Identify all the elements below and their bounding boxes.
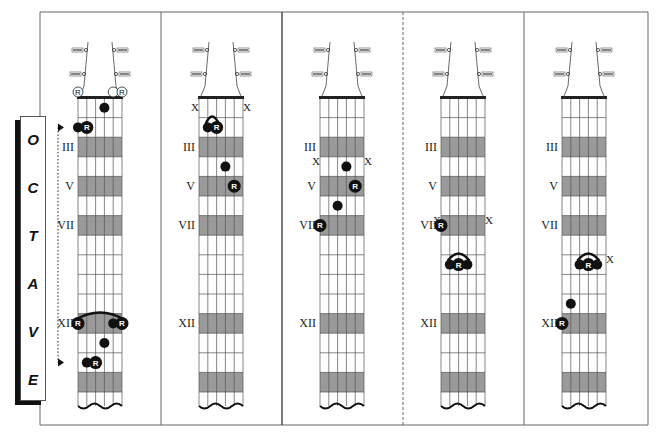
octave-label-box: O C T A V E [20,116,46,401]
finger-dot [333,201,343,211]
fret-position-label: III [62,140,74,154]
muted-string-marker: X [243,101,251,113]
shaded-fret-marker [199,137,243,157]
root-label: R [456,261,462,270]
octave-arrow-icon [58,359,64,367]
fret-position-label: III [183,140,195,154]
fretboard-diagrams: IIIVVIIXIIRRRRRRIIIVVIIXIIXXRRIIIVVIIXII… [0,0,669,445]
headstock [312,42,372,98]
shaded-fret-marker [78,372,122,392]
shaded-fret-marker [562,216,606,236]
muted-string-marker: X [312,155,320,167]
octave-arrow-icon [58,123,64,131]
finger-dot [566,299,576,309]
fret-position-label: V [428,179,437,193]
root-label: R [75,88,81,97]
fret-position-label: XII [299,316,316,330]
muted-string-marker: X [364,155,372,167]
root-label: R [214,123,220,132]
octave-letter: E [21,371,45,388]
shaded-fret-marker [320,137,364,157]
shaded-fret-marker [320,314,364,334]
fret-position-label: XII [57,316,74,330]
root-label: R [75,319,81,328]
fret-position-label: V [549,179,558,193]
headstock [191,42,251,98]
muted-string-marker: X [191,101,199,113]
fret-position-label: III [425,140,437,154]
fretboard-break-wave [78,404,122,409]
shaded-fret-marker [199,314,243,334]
nut [319,96,365,99]
root-label: R [231,182,237,191]
root-label: R [119,319,125,328]
octave-letter: O [21,131,45,148]
root-label: R [352,182,358,191]
root-label: R [84,123,90,132]
nut [561,96,607,99]
shaded-fret-marker [199,216,243,236]
fret-position-label: V [307,179,316,193]
shaded-fret-marker [441,176,485,196]
shaded-fret-marker [78,137,122,157]
fretboard-1: IIIVVIIXIIRRRRRR [57,42,130,409]
headstock [433,42,493,98]
nut [440,96,486,99]
fret-position-label: XII [178,316,195,330]
fret-position-label: VII [178,218,195,232]
shaded-fret-marker [562,137,606,157]
octave-letter: C [21,179,45,196]
shaded-fret-marker [320,372,364,392]
chord-diagram-sheet: IIIVVIIXIIRRRRRRIIIVVIIXIIXXRRIIIVVIIXII… [0,0,669,445]
shaded-fret-marker [441,137,485,157]
nut [198,96,244,99]
fret-position-label: XII [541,316,558,330]
root-label: R [559,319,565,328]
fretboard-break-wave [562,404,606,409]
shaded-fret-marker [441,314,485,334]
shaded-fret-marker [78,176,122,196]
fret-position-label: III [304,140,316,154]
octave-letter: T [21,227,45,244]
shaded-fret-marker [78,216,122,236]
fretboard-3: IIIVVIIXIIXXRR [299,42,372,409]
fret-position-label: V [65,179,74,193]
shaded-fret-marker [562,176,606,196]
fretboard-break-wave [320,404,364,409]
root-label: R [93,359,99,368]
muted-string-marker: X [606,253,614,265]
fretboard-break-wave [199,404,243,409]
muted-string-marker: X [485,214,493,226]
shaded-fret-marker [441,372,485,392]
fret-position-label: V [186,179,195,193]
fretboard-break-wave [441,404,485,409]
root-label: R [438,221,444,230]
fretboard-4: IIIVVIIXIIXXRR [420,42,493,409]
headstock [554,42,614,98]
fret-position-label: III [546,140,558,154]
octave-letter: V [21,323,45,340]
finger-dot [462,260,472,270]
fretboard-5: IIIVVIIXIIXRR [541,42,614,409]
shaded-fret-marker [562,372,606,392]
shaded-fret-marker [562,314,606,334]
finger-dot [99,103,109,113]
finger-dot [592,260,602,270]
root-label: R [119,88,125,97]
fret-position-label: VII [57,218,74,232]
fret-position-label: VII [541,218,558,232]
finger-dot [220,162,230,172]
fretboard-2: IIIVVIIXIIXXRR [178,42,251,409]
shaded-fret-marker [320,216,364,236]
fret-position-label: XII [420,316,437,330]
finger-dot [99,338,109,348]
shaded-fret-marker [441,216,485,236]
fret-position-label: VII [299,218,316,232]
root-label: R [586,261,592,270]
root-label: R [317,221,323,230]
octave-letter: A [21,275,45,292]
finger-dot [341,162,351,172]
shaded-fret-marker [199,372,243,392]
